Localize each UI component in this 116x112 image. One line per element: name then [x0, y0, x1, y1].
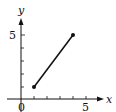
y-axis-arrow-icon	[19, 18, 24, 25]
x-tick-label-5: 5	[82, 101, 89, 112]
chart-canvas: y x 0 5 5	[0, 0, 116, 112]
origin-label: 0	[18, 101, 25, 112]
y-ticks	[21, 35, 25, 87]
endpoint-end	[71, 33, 75, 37]
y-tick-label-5: 5	[9, 29, 16, 42]
y-axis-label: y	[17, 4, 25, 17]
x-axis-label: x	[106, 93, 113, 106]
line-segment	[34, 35, 73, 87]
endpoint-start	[32, 85, 36, 89]
x-axis-arrow-icon	[97, 97, 104, 102]
